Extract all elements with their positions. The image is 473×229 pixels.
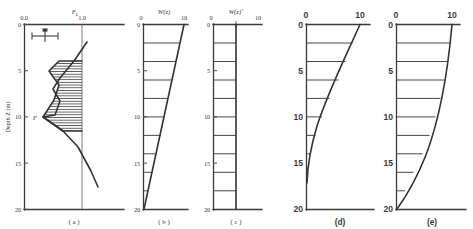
panel-e-ylabel-10: 10: [383, 112, 393, 122]
panel-a-xtick-0: 0.0: [20, 14, 28, 21]
figure-root: FL 0.0 1.0 0 5 10 15 20: [0, 0, 473, 229]
panel-d-caption: (d): [335, 217, 346, 227]
panel-b-xtick-0: 0: [139, 14, 142, 21]
panel-a-ylabel-10: 10: [15, 113, 21, 120]
panel-a-svg: FL 0.0 1.0 0 5 10 15 20: [0, 0, 128, 229]
panel-d-rungs: [307, 43, 353, 168]
panel-e-svg: 0 10 0 5 10 15 20 (e): [374, 0, 473, 229]
panel-c-svg: W(z)* 0 10 0 5 10 15 20: [196, 0, 276, 229]
panel-d-data-curve: [307, 25, 360, 184]
panel-d-concave-profile: 0 10 0 5 10 15 20 (d): [284, 0, 380, 229]
panel-e-rungs: [397, 43, 451, 191]
panel-c-ylabel-0: 0: [207, 21, 210, 28]
panel-c-title: W(z)*: [229, 8, 244, 16]
panel-c-ylabel-10: 10: [204, 113, 210, 120]
panel-c-ylabel-20: 20: [204, 206, 210, 213]
panel-a-depth-axis-label: Depth Z (m): [4, 102, 12, 133]
panel-b-ylabel-0: 0: [137, 21, 140, 28]
panel-a-xtick-1: 1.0: [78, 14, 86, 21]
panel-a-ylabel-0: 0: [18, 21, 21, 28]
panel-e-convex-profile: 0 10 0 5 10 15 20 (e): [374, 0, 473, 229]
panel-d-ylabel-10: 10: [293, 112, 303, 122]
panel-a-ylabel-5: 5: [18, 67, 21, 74]
panel-c-ylabel-5: 5: [207, 67, 210, 74]
panel-d-ylabel-20: 20: [293, 204, 303, 214]
panel-c-ylabel-15: 15: [204, 160, 210, 167]
panel-b-ylabel-5: 5: [137, 67, 140, 74]
panel-c-caption: ( c ): [231, 218, 242, 226]
panel-e-ylabel-20: 20: [383, 204, 393, 214]
panel-e-caption: (e): [427, 217, 437, 227]
panel-d-ylabel-15: 15: [293, 158, 303, 168]
panel-a-ylabel-20: 20: [15, 206, 21, 213]
panel-c-xtick-1: 10: [255, 14, 261, 21]
panel-e-ylabel-5: 5: [388, 66, 393, 76]
panel-a-annotation-f: F: [32, 114, 37, 121]
panel-c-xtick-0: 0: [209, 14, 212, 21]
panel-b-ylabel-10: 10: [134, 113, 140, 120]
panel-b-xtick-1: 10: [181, 14, 187, 21]
panel-d-ylabel-5: 5: [298, 66, 303, 76]
panel-e-ylabel-0: 0: [388, 20, 393, 30]
panel-a-caption: ( a ): [69, 218, 80, 226]
panel-b-ylabel-15: 15: [134, 160, 140, 167]
panel-d-xtick-0: 0: [304, 10, 309, 20]
panel-a-ylabel-15: 15: [15, 160, 21, 167]
panel-d-xtick-1: 10: [355, 10, 365, 20]
panel-d-ylabel-0: 0: [298, 20, 303, 30]
panel-e-xtick-0: 0: [394, 10, 399, 20]
panel-e-xtick-1: 10: [447, 10, 457, 20]
panel-b-wz-wedge: W(z) 0 10 0 5 10 15 20: [126, 0, 198, 229]
panel-a-error-bar: [32, 28, 58, 42]
panel-b-ylabel-20: 20: [134, 206, 140, 213]
panel-b-caption: ( b ): [158, 218, 169, 226]
panel-b-title: W(z): [158, 8, 170, 16]
panel-d-svg: 0 10 0 5 10 15 20 (d): [284, 0, 380, 229]
panel-c-rungs: [214, 43, 237, 191]
panel-c-wz-star-ladder: W(z)* 0 10 0 5 10 15 20: [196, 0, 276, 229]
panel-e-ylabel-15: 15: [383, 158, 393, 168]
panel-b-svg: W(z) 0 10 0 5 10 15 20: [126, 0, 198, 229]
panel-a-fl-profile: FL 0.0 1.0 0 5 10 15 20: [0, 0, 128, 229]
